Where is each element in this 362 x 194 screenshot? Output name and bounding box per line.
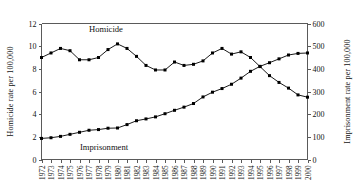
data-point-marker (230, 53, 233, 56)
x-tick-label: 1974 (58, 165, 66, 180)
x-tick-label: 1992 (229, 165, 237, 180)
x-tick-label: 1985 (162, 165, 170, 180)
data-point-marker (240, 50, 243, 53)
data-point-marker (278, 81, 281, 84)
data-point-marker (135, 55, 138, 58)
left-tick-label: 8 (33, 65, 37, 74)
x-tick-label: 1984 (153, 165, 161, 180)
x-tick-label: 1996 (267, 165, 275, 180)
data-point-marker (59, 135, 62, 138)
data-point-marker (278, 57, 281, 60)
data-point-marker (221, 47, 224, 50)
data-point-marker (192, 63, 195, 66)
right-tick-label: 0 (313, 156, 317, 165)
data-point-marker (183, 64, 186, 67)
x-tick-label: 1998 (286, 165, 294, 180)
data-point-marker (230, 83, 233, 86)
data-point-marker (268, 61, 271, 64)
x-tick-label: 1982 (134, 165, 142, 180)
x-tick-label: 1986 (172, 165, 180, 180)
data-point-marker (202, 95, 205, 98)
data-point-marker (183, 106, 186, 109)
data-point-marker (88, 58, 91, 61)
x-tick-label: 1997 (276, 165, 284, 180)
data-point-marker (173, 109, 176, 112)
data-point-marker (107, 127, 110, 130)
x-tick-label: 2000 (305, 165, 313, 180)
data-point-marker (78, 131, 81, 134)
data-point-marker (69, 49, 72, 52)
x-tick-label: 1990 (210, 165, 218, 180)
data-point-marker (40, 56, 43, 59)
data-point-marker (154, 115, 157, 118)
right-tick-label: 500 (313, 42, 325, 51)
x-tick-label: 1981 (124, 165, 132, 180)
data-point-marker (126, 47, 129, 50)
x-tick-label: 1983 (143, 165, 151, 180)
data-point-marker (59, 47, 62, 50)
x-tick-label: 1979 (105, 165, 113, 180)
right-tick-label: 300 (313, 88, 325, 97)
data-point-marker (116, 126, 119, 129)
x-tick-label: 1987 (181, 165, 189, 180)
x-tick-label: 1972 (39, 165, 47, 180)
data-point-marker (69, 133, 72, 136)
chart-container: 024681012 0100200300400500600 1972197319… (0, 0, 362, 194)
data-point-marker (97, 56, 100, 59)
x-tick-label: 1995 (257, 165, 265, 180)
data-point-marker (135, 119, 138, 122)
right-tick-label: 100 (313, 133, 325, 142)
x-tick-label: 1976 (77, 165, 85, 180)
data-point-marker (249, 70, 252, 73)
x-tick-label: 1999 (295, 165, 303, 180)
x-tick-label: 1991 (219, 165, 227, 180)
data-point-marker (297, 93, 300, 96)
left-tick-label: 4 (33, 110, 37, 119)
dual-axis-line-chart: 024681012 0100200300400500600 1972197319… (0, 0, 362, 194)
x-tick-label: 1973 (48, 165, 56, 180)
data-point-marker (88, 129, 91, 132)
homicide-series-label: Homicide (89, 24, 123, 34)
data-point-marker (259, 65, 262, 68)
data-point-marker (40, 137, 43, 140)
data-point-marker (50, 136, 53, 139)
data-point-marker (164, 112, 167, 115)
data-point-marker (126, 123, 129, 126)
left-tick-label: 6 (33, 88, 37, 97)
data-point-marker (154, 68, 157, 71)
data-point-marker (221, 87, 224, 90)
data-point-marker (240, 77, 243, 80)
left-tick-label: 12 (29, 20, 37, 29)
data-point-marker (145, 64, 148, 67)
data-point-marker (145, 117, 148, 120)
data-point-marker (287, 87, 290, 90)
left-tick-label: 2 (33, 133, 37, 142)
data-point-marker (211, 91, 214, 94)
x-tick-label: 1980 (115, 165, 123, 180)
left-tick-label: 10 (29, 42, 37, 51)
data-point-marker (211, 51, 214, 54)
data-point-marker (107, 48, 110, 51)
data-point-marker (78, 58, 81, 61)
data-point-marker (297, 52, 300, 55)
left-tick-label: 0 (33, 156, 37, 165)
right-axis-title: Imprisonment rate per 100,000 (343, 39, 352, 143)
right-tick-label: 200 (313, 110, 325, 119)
x-tick-label: 1994 (248, 165, 256, 180)
data-point-marker (192, 102, 195, 105)
data-point-marker (306, 96, 309, 99)
x-tick-label: 1975 (67, 165, 75, 180)
right-tick-label: 600 (313, 20, 325, 29)
data-point-marker (287, 54, 290, 57)
right-tick-label: 400 (313, 65, 325, 74)
data-point-marker (249, 56, 252, 59)
data-point-marker (173, 61, 176, 64)
left-axis-title: Homicide rate per 100,000 (6, 46, 15, 136)
x-axis-tick-labels: 1972197319741975197619771978197919801981… (39, 165, 313, 180)
x-tick-label: 1989 (200, 165, 208, 180)
x-tick-label: 1988 (191, 165, 199, 180)
data-point-marker (164, 68, 167, 71)
data-point-marker (50, 51, 53, 54)
data-point-marker (97, 128, 100, 131)
data-point-marker (116, 42, 119, 45)
